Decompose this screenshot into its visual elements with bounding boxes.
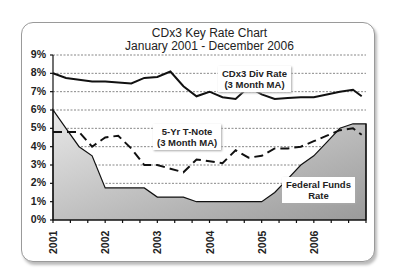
y-tick: 0% — [24, 213, 46, 225]
x-tick: 2002 — [99, 231, 111, 254]
cdx3-label: CDx3 Div Rate(3 Month MA) — [218, 66, 291, 92]
x-tick: 2005 — [256, 231, 268, 254]
x-tick: 2001 — [47, 231, 59, 254]
y-tick: 3% — [24, 158, 46, 170]
fed-funds-label: Federal FundsRate — [282, 177, 355, 203]
y-tick: 9% — [24, 48, 46, 60]
y-tick: 5% — [24, 121, 46, 133]
y-tick: 2% — [24, 176, 46, 188]
tnote-label: 5-Yr T-Note(3 Month MA) — [153, 124, 221, 150]
cdx3-line — [53, 72, 362, 100]
y-tick: 4% — [24, 140, 46, 152]
y-tick: 6% — [24, 103, 46, 115]
x-tick: 2004 — [204, 231, 216, 254]
x-tick: 2006 — [308, 231, 320, 254]
y-tick: 8% — [24, 66, 46, 78]
y-tick: 7% — [24, 85, 46, 97]
y-tick: 1% — [24, 195, 46, 207]
x-tick: 2003 — [151, 231, 163, 254]
